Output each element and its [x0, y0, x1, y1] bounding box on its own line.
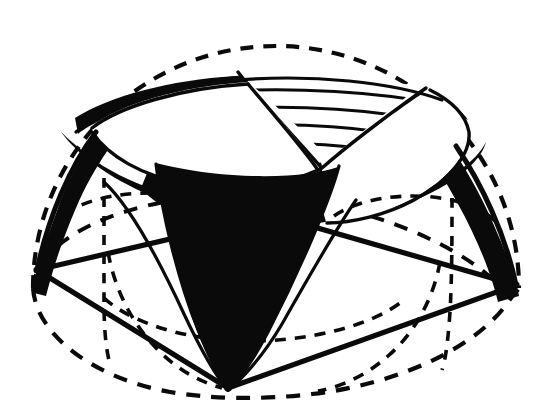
bottom-vertex	[224, 384, 232, 392]
left-vertex	[33, 266, 40, 273]
figure-root	[0, 0, 548, 419]
right-vertex	[512, 281, 519, 288]
hemisphere-diagram	[0, 0, 548, 419]
